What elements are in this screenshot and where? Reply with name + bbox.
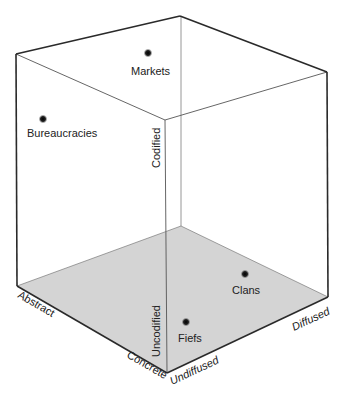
clans-dot: [241, 270, 250, 279]
top-inner-edge-left: [16, 54, 165, 120]
top-inner-edge-right: [165, 72, 327, 120]
top-right-edge: [180, 16, 327, 72]
axis-codified-label: Codified: [150, 128, 162, 168]
left-vertical-edge: [16, 54, 17, 286]
axis-uncodified-label: Uncodified: [150, 305, 162, 357]
top-left-edge: [16, 16, 180, 54]
markets-label: Markets: [131, 65, 171, 77]
right-vertical-edge: [327, 72, 328, 297]
fiefs-dot: [182, 318, 191, 327]
cube-diagram: Markets Bureaucracies Clans Fiefs Codifi…: [0, 0, 345, 397]
clans-label: Clans: [232, 284, 261, 296]
bureaucracies-dot: [39, 115, 48, 124]
fiefs-label: Fiefs: [178, 332, 202, 344]
bureaucracies-label: Bureaucracies: [27, 127, 98, 139]
cube-floor: [17, 226, 328, 373]
markets-dot: [144, 49, 153, 58]
